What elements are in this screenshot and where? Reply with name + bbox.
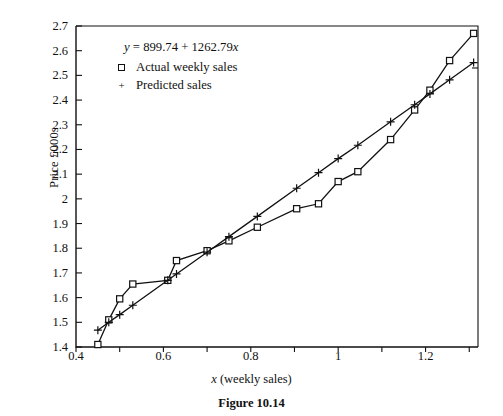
figure-container: Price £000s 2.72.62.52.42.32.22.121.91.8… [0,0,503,416]
actual-data-point [95,341,101,347]
plot-frame [76,26,478,347]
actual-data-point [173,257,179,263]
axis-lines [76,26,478,347]
actual-data-point [355,169,361,175]
actual-data-point [315,201,321,207]
plot-area [0,0,503,416]
actual-data-point [447,57,453,63]
actual-data-point [117,296,123,302]
actual-data-point [294,206,300,212]
predicted-series-line [98,63,474,331]
actual-data-point [388,136,394,142]
actual-data-point [130,281,136,287]
actual-series-line [98,33,474,344]
actual-data-point [254,224,260,230]
actual-data-point [471,30,477,36]
actual-data-point [335,178,341,184]
